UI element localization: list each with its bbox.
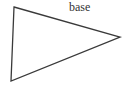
triangle-shape	[11, 7, 120, 81]
triangle-diagram	[0, 0, 129, 89]
base-label: base	[69, 1, 90, 13]
